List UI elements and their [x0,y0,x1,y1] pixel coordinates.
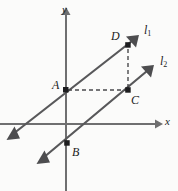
x-axis-label: x [165,116,170,127]
y-axis [62,7,71,191]
point-marker-a [63,87,69,93]
x-axis-arrowhead-icon [155,120,163,129]
point-marker-d [125,42,131,48]
geometry-figure: y x A B C D l1 l2 [0,0,178,191]
point-marker-c [125,87,131,93]
line-l1-arrowhead-start-icon [7,127,21,141]
point-label-c: C [131,94,139,106]
line-label-l2-subscript: 2 [163,60,167,69]
y-axis-label: y [62,4,67,15]
line-label-l1-subscript: 1 [147,29,151,38]
point-label-a: A [52,79,59,91]
point-label-b: B [72,146,79,158]
point-label-d: D [111,30,120,42]
line-label-l2: l2 [160,55,167,67]
line-l1-segment [13,41,132,134]
line-label-l1: l1 [144,24,151,36]
point-marker-b [64,140,70,146]
